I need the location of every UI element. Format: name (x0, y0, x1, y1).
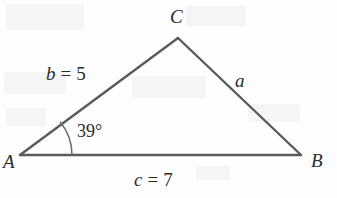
vertex-label-c: C (170, 7, 183, 26)
vertex-label-a: A (3, 152, 15, 171)
side-c-equals: = (147, 169, 158, 190)
triangle-side-a-line (178, 38, 301, 155)
angle-label-a: 39° (77, 122, 102, 140)
angle-arc-a (61, 122, 73, 155)
side-label-b: b=5 (46, 64, 86, 83)
side-b-value: 5 (76, 63, 86, 84)
side-a-name: a (235, 70, 245, 91)
side-label-a: a (235, 71, 245, 90)
side-label-c: c=7 (134, 170, 173, 189)
triangle-diagram: A B C b=5 a c=7 39° (0, 0, 337, 198)
side-b-name: b (46, 63, 56, 84)
side-b-equals: = (61, 63, 72, 84)
side-c-value: 7 (163, 169, 173, 190)
vertex-label-b: B (311, 151, 323, 170)
side-c-name: c (134, 169, 142, 190)
